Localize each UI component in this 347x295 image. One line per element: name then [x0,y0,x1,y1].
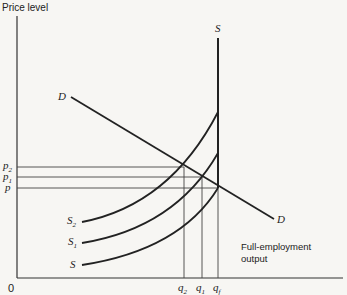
price-label-p: p [5,182,11,193]
origin-label: 0 [8,283,14,294]
supply-label-s2: S2 [67,215,76,229]
quantity-label-q2: q2 [178,282,187,295]
y-axis-label: Price level [2,3,48,13]
demand-line [71,97,274,219]
demand-label-end: D [277,214,285,225]
supply-curve-s1 [82,153,218,243]
aggregate-supply-demand-diagram: Price level 0 D D S S2 S1 S p2 p1 p q2 q… [0,0,347,295]
full-employment-annotation-line2: output [241,254,267,264]
supply-curve-s [82,188,218,265]
vertical-supply-label: S [215,23,221,34]
supply-label-s1: S1 [68,236,77,250]
full-employment-annotation-line1: Full-employment [241,242,311,252]
demand-label-start: D [58,91,66,102]
supply-label-s: S [70,259,76,270]
quantity-label-qf: qf [213,282,220,295]
quantity-label-q1: q1 [196,282,205,295]
